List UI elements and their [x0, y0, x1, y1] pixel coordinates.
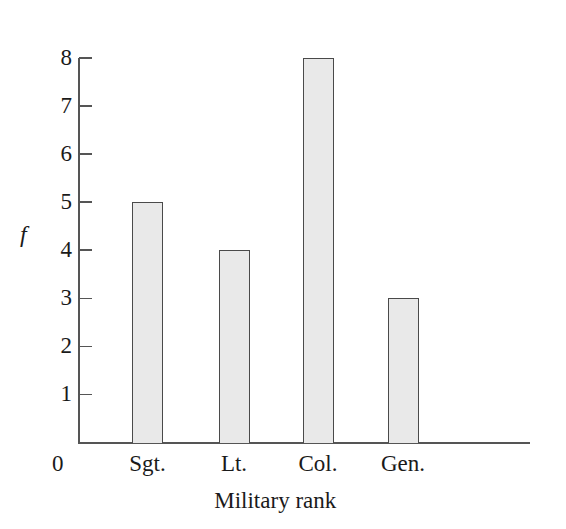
x-axis-title: Military rank — [30, 489, 520, 512]
bar — [132, 202, 163, 442]
y-axis-tick-label: 4 — [44, 238, 72, 261]
y-axis-tick-label: 8 — [44, 46, 72, 69]
y-axis-tick-label: 3 — [44, 286, 72, 309]
y-axis-tick — [79, 201, 92, 203]
y-axis-tick-label: 5 — [44, 190, 72, 213]
y-axis-title: f — [20, 222, 27, 246]
y-axis-tick — [79, 249, 92, 251]
y-axis-tick-label: 2 — [44, 334, 72, 357]
bar-chart: f 87654321 0 Sgt.Lt.Col.Gen. Military ra… — [0, 0, 566, 529]
y-axis-tick — [79, 105, 92, 107]
bar — [219, 250, 250, 442]
x-axis-tick-label: Gen. — [348, 452, 458, 475]
y-axis-tick — [79, 153, 92, 155]
y-axis-tick-label: 6 — [44, 142, 72, 165]
y-axis-origin-label: 0 — [52, 452, 64, 475]
y-axis-tick-label: 1 — [44, 382, 72, 405]
bar — [303, 58, 334, 443]
y-axis-tick — [79, 57, 92, 59]
bar — [388, 298, 419, 442]
y-axis-tick — [79, 394, 92, 396]
y-axis-tick-label: 7 — [44, 94, 72, 117]
y-axis-tick — [79, 298, 92, 300]
y-axis-tick — [79, 346, 92, 348]
